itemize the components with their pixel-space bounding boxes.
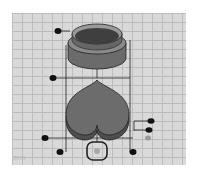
left-corner-handle[interactable]	[42, 135, 49, 141]
scene-canvas[interactable]	[0, 0, 197, 174]
scale-label: mm	[13, 154, 27, 161]
bottom-right-handle[interactable]	[130, 149, 137, 155]
mid-height-handle[interactable]	[50, 75, 57, 81]
right-handle-inactive[interactable]	[145, 136, 151, 141]
right-handle-1[interactable]	[148, 118, 155, 124]
right-handle-2[interactable]	[146, 127, 153, 133]
cylinder-object[interactable]	[68, 24, 126, 69]
rotate-handle[interactable]	[87, 142, 107, 160]
heart-object[interactable]	[66, 80, 129, 140]
bottom-left-handle[interactable]	[57, 149, 64, 155]
top-height-handle[interactable]	[55, 28, 62, 34]
